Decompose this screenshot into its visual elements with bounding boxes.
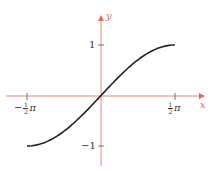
tick-sign: − xyxy=(14,102,22,113)
fraction: 12 xyxy=(23,102,28,115)
x-tick-label-neg: −12π xyxy=(14,102,36,115)
y-tick-label-neg: −1 xyxy=(81,141,96,151)
denominator: 2 xyxy=(169,109,173,115)
x-tick-label-pos: 12π xyxy=(167,102,181,115)
chart-canvas xyxy=(0,0,215,174)
fraction: 12 xyxy=(168,102,173,115)
pi-symbol: π xyxy=(29,102,36,113)
y-axis-label: y xyxy=(106,11,112,21)
denominator: 2 xyxy=(24,109,28,115)
pi-symbol: π xyxy=(174,102,181,113)
x-axis-label: x xyxy=(200,100,206,110)
y-tick-label-pos: 1 xyxy=(89,40,95,50)
